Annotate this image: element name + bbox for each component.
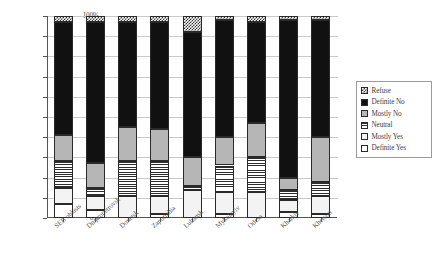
legend-swatch-icon — [361, 87, 368, 94]
legend-item-label: Definite No — [372, 98, 405, 106]
legend-item-label: Mostly No — [372, 110, 402, 118]
bar-stack — [215, 16, 234, 218]
bar-segment — [279, 190, 298, 200]
bar-segment — [215, 20, 234, 137]
bar-segment — [54, 135, 73, 161]
legend-swatch-icon — [361, 133, 368, 140]
bar-stack — [183, 16, 202, 218]
legend-item-label: Mostly Yes — [372, 133, 403, 141]
legend: RefuseDefinite NoMostly NoNeutralMostly … — [356, 81, 432, 158]
legend-item: Refuse — [361, 85, 428, 97]
bar-segment — [215, 16, 234, 20]
legend-swatch-icon — [361, 110, 368, 117]
y-axis-tick-mark — [43, 218, 47, 219]
bar-segment — [86, 16, 105, 22]
bar-segment — [279, 178, 298, 190]
legend-item: Definite Yes — [361, 143, 428, 155]
bar-segment — [118, 16, 137, 22]
legend-item: Neutral — [361, 120, 428, 132]
bar-segment — [86, 163, 105, 187]
bar-segment — [118, 22, 137, 127]
bar-stack — [150, 16, 169, 218]
bar-stack — [86, 16, 105, 218]
bar-segment — [183, 16, 202, 32]
bar-segment — [247, 123, 266, 157]
bar-segment — [247, 22, 266, 123]
bar-segment — [54, 161, 73, 187]
bar-segment — [54, 16, 73, 22]
legend-item-label: Definite Yes — [372, 144, 406, 152]
legend-swatch-icon — [361, 145, 368, 152]
legend-swatch-icon — [361, 99, 368, 106]
bar-segment — [86, 188, 105, 196]
bar-segment — [54, 22, 73, 135]
bar-segment — [311, 20, 330, 137]
bar-segment — [215, 137, 234, 165]
bar-segment — [247, 16, 266, 22]
bar-segment — [311, 16, 330, 20]
bar-segment — [86, 22, 105, 163]
bar-segment — [183, 157, 202, 185]
legend-item-label: Refuse — [372, 87, 391, 95]
bar-segment — [183, 32, 202, 157]
legend-item: Definite No — [361, 97, 428, 109]
bar-stack — [311, 16, 330, 218]
bar-segment — [150, 16, 169, 22]
bar-segment — [183, 186, 202, 190]
bar-stack — [118, 16, 137, 218]
bar-stack — [279, 16, 298, 218]
bar-segment — [150, 22, 169, 129]
legend-item: Mostly Yes — [361, 131, 428, 143]
bar-segment — [150, 129, 169, 161]
bar-segment — [247, 157, 266, 191]
bar-segment — [118, 127, 137, 161]
bar-stack — [54, 16, 73, 218]
bar-segment — [279, 20, 298, 178]
bar-segment — [118, 161, 137, 195]
bar-segment — [279, 16, 298, 20]
bar-segment — [215, 166, 234, 192]
bar-stack — [247, 16, 266, 218]
bars-layer — [47, 16, 337, 218]
bar-segment — [54, 188, 73, 204]
legend-item: Mostly No — [361, 108, 428, 120]
bar-segment — [311, 137, 330, 181]
legend-item-label: Neutral — [372, 121, 393, 129]
legend-swatch-icon — [361, 122, 368, 129]
stacked-bar-chart: 0%10%20%30%40%50%60%70%80%90%100% SEB ob… — [0, 0, 440, 273]
bar-segment — [150, 161, 169, 195]
bar-segment — [311, 182, 330, 196]
